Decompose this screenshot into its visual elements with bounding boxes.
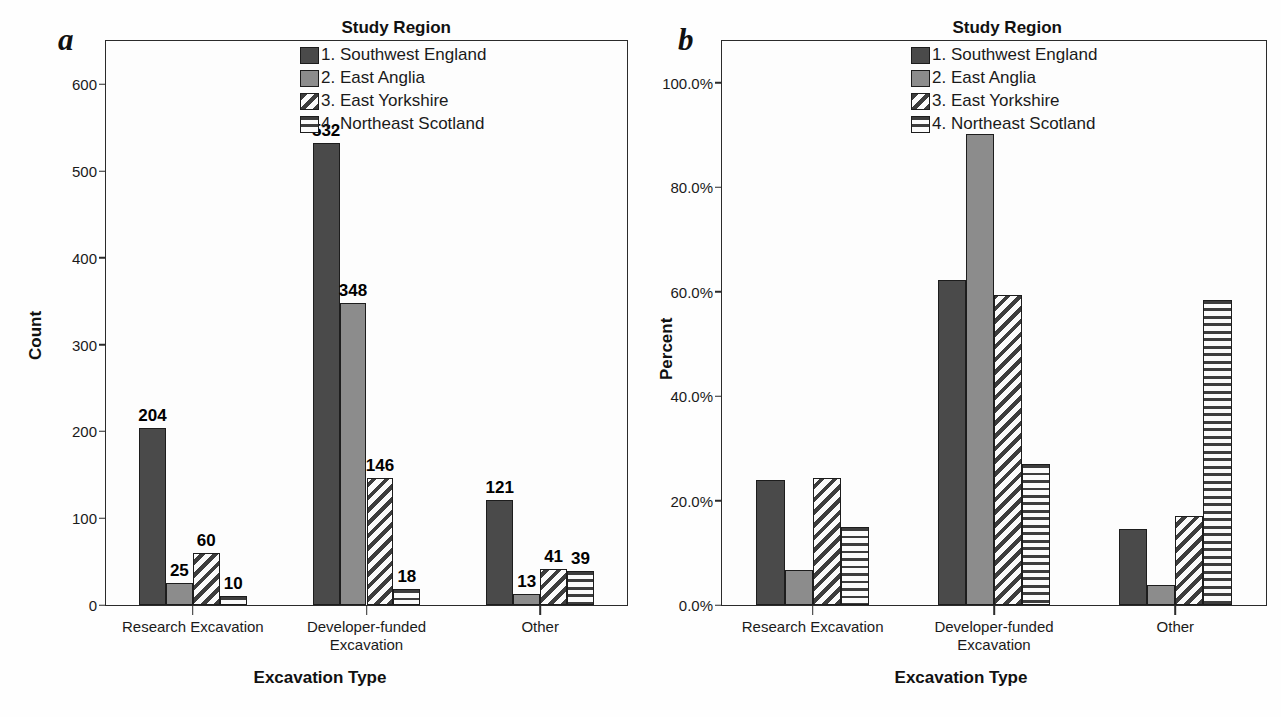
bar-g0-s1: 25 xyxy=(166,583,193,605)
y-tick-mark xyxy=(715,82,722,84)
bar-value-label: 13 xyxy=(517,572,536,592)
bar-g2-s3 xyxy=(1203,300,1231,606)
bar-g0-s3: 10 xyxy=(220,596,247,605)
y-tick-label: 400 xyxy=(72,249,106,266)
panel-b-legend: Study Region 1. Southwest England2. East… xyxy=(911,18,1097,137)
bar-g0-s3 xyxy=(841,527,869,605)
legend-label: 4. Northeast Scotland xyxy=(321,114,484,134)
y-tick-mark xyxy=(715,186,722,188)
legend-swatch-diagonal-hatch-icon xyxy=(911,93,930,110)
bar-value-label: 41 xyxy=(544,547,563,567)
legend-swatch-horizontal-hatch-icon xyxy=(911,116,930,133)
bar-value-label: 39 xyxy=(571,549,590,569)
legend-label: 4. Northeast Scotland xyxy=(932,114,1095,134)
panel-a-legend: Study Region 1. Southwest England2. East… xyxy=(300,18,486,137)
bar-g2-s0 xyxy=(1119,529,1147,605)
bar-g0-s1 xyxy=(785,570,813,605)
panel-b-y-axis-title: Percent xyxy=(657,318,677,380)
legend-label: 1. Southwest England xyxy=(932,45,1097,65)
legend-label: 3. East Yorkshire xyxy=(321,91,449,111)
legend-item-3: 3. East Yorkshire xyxy=(300,91,486,111)
legend-item-1: 1. Southwest England xyxy=(911,45,1097,65)
bar-g2-s1 xyxy=(1147,585,1175,605)
y-tick-label: 20.0% xyxy=(670,492,722,509)
bar-g1-s2 xyxy=(994,295,1022,605)
bar-value-label: 10 xyxy=(224,574,243,594)
panel-a-x-axis-title: Excavation Type xyxy=(0,668,640,688)
x-tick-label: Research Excavation xyxy=(742,618,884,636)
x-tick-mark xyxy=(192,605,194,615)
y-tick-label: 100.0% xyxy=(662,74,722,91)
y-tick-mark xyxy=(99,170,106,172)
y-tick-mark xyxy=(715,291,722,293)
bar-g1-s0 xyxy=(938,280,966,605)
bar-g1-s3 xyxy=(1022,464,1050,605)
y-tick-mark xyxy=(715,500,722,502)
panel-b-legend-title: Study Region xyxy=(911,18,1097,38)
y-tick-mark xyxy=(715,395,722,397)
x-tick-mark xyxy=(1175,605,1177,615)
bar-g1-s2: 146 xyxy=(367,478,394,605)
legend-label: 3. East Yorkshire xyxy=(932,91,1060,111)
x-tick-label: Developer-fundedExcavation xyxy=(307,618,426,654)
bar-g0-s2 xyxy=(813,478,841,605)
legend-item-2: 2. East Anglia xyxy=(911,68,1097,88)
panel-b-letter: b xyxy=(678,22,694,58)
legend-item-2: 2. East Anglia xyxy=(300,68,486,88)
legend-label: 2. East Anglia xyxy=(321,68,425,88)
panel-b: b Percent 0.0%20.0%40.0%60.0%80.0%100.0%… xyxy=(641,0,1281,717)
legend-item-3: 3. East Yorkshire xyxy=(911,91,1097,111)
legend-swatch-diagonal-hatch-icon xyxy=(300,93,319,110)
y-tick-mark xyxy=(715,604,722,606)
panel-a: a Count 0100200300400500600 Research Exc… xyxy=(0,0,640,717)
legend-item-4: 4. Northeast Scotland xyxy=(911,114,1097,134)
bar-value-label: 348 xyxy=(339,281,367,301)
x-tick-label: Other xyxy=(521,618,559,636)
bar-g2-s3: 39 xyxy=(567,571,594,605)
legend-swatch-solid-dark-icon xyxy=(911,47,930,64)
y-tick-label: 0 xyxy=(89,597,106,614)
panel-a-y-axis-title: Count xyxy=(26,311,46,360)
bar-value-label: 121 xyxy=(486,478,514,498)
bar-g2-s2: 41 xyxy=(540,569,567,605)
y-tick-label: 40.0% xyxy=(670,388,722,405)
figure-container: a Count 0100200300400500600 Research Exc… xyxy=(0,0,1281,717)
bar-value-label: 25 xyxy=(170,561,189,581)
legend-label: 2. East Anglia xyxy=(932,68,1036,88)
legend-swatch-horizontal-hatch-icon xyxy=(300,116,319,133)
y-tick-label: 200 xyxy=(72,423,106,440)
y-tick-mark xyxy=(99,431,106,433)
x-tick-mark xyxy=(366,605,368,615)
y-tick-label: 500 xyxy=(72,163,106,180)
legend-label: 1. Southwest England xyxy=(321,45,486,65)
y-tick-mark xyxy=(99,84,106,86)
bar-g1-s1 xyxy=(966,134,994,605)
legend-item-4: 4. Northeast Scotland xyxy=(300,114,486,134)
bar-g2-s2 xyxy=(1175,516,1203,605)
legend-item-1: 1. Southwest England xyxy=(300,45,486,65)
y-tick-label: 100 xyxy=(72,510,106,527)
bar-value-label: 18 xyxy=(397,567,416,587)
bar-g0-s2: 60 xyxy=(193,553,220,605)
y-tick-label: 600 xyxy=(72,76,106,93)
y-tick-label: 60.0% xyxy=(670,283,722,300)
bar-value-label: 146 xyxy=(366,456,394,476)
bar-g2-s0: 121 xyxy=(486,500,513,605)
y-tick-mark xyxy=(99,604,106,606)
bar-g1-s3: 18 xyxy=(393,589,420,605)
bar-value-label: 204 xyxy=(138,406,166,426)
x-tick-mark xyxy=(539,605,541,615)
x-tick-label: Developer-fundedExcavation xyxy=(934,618,1053,654)
x-tick-mark xyxy=(993,605,995,615)
legend-swatch-solid-dark-icon xyxy=(300,47,319,64)
y-tick-label: 0.0% xyxy=(679,597,722,614)
y-tick-mark xyxy=(99,517,106,519)
y-tick-mark xyxy=(99,344,106,346)
bar-g0-s0: 204 xyxy=(139,428,166,605)
bar-g0-s0 xyxy=(756,480,784,605)
legend-swatch-solid-gray-icon xyxy=(911,70,930,87)
bar-g1-s1: 348 xyxy=(340,303,367,605)
x-tick-label: Other xyxy=(1157,618,1195,636)
legend-swatch-solid-gray-icon xyxy=(300,70,319,87)
panel-b-x-axis-title: Excavation Type xyxy=(641,668,1281,688)
